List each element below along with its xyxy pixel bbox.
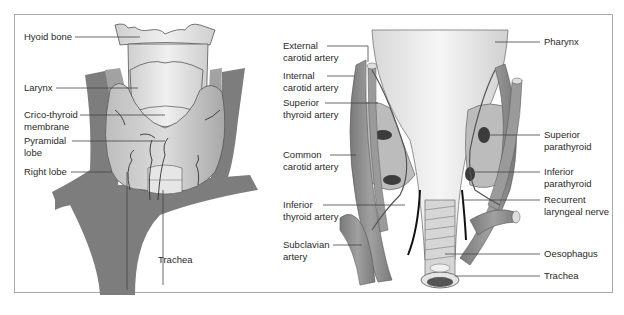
inferior-parathyroid-left (383, 175, 401, 185)
label-subclavian-artery: Subclavianartery (283, 239, 329, 263)
recurrent-laryngeal-nerve-right (462, 190, 466, 240)
label-superior-parathyroid: Superiorparathyroid (544, 129, 592, 153)
label-crico-thyroid-membrane: Crico-thyroidmembrane (24, 109, 78, 133)
label-superior-thyroid-artery: Superiorthyroid artery (283, 97, 338, 121)
label-pyramidal-lobe: Pyramidallobe (24, 135, 66, 159)
label-trachea-right: Trachea (544, 270, 579, 282)
label-larynx: Larynx (24, 82, 53, 94)
right-illustration (340, 30, 522, 288)
label-hyoid-bone: Hyoid bone (24, 31, 72, 43)
label-common-carotid-artery: Commoncarotid artery (283, 149, 338, 173)
label-trachea-left: Trachea (158, 254, 193, 266)
label-inferior-thyroid-artery: Inferiorthyroid artery (283, 199, 338, 223)
left-illustration (52, 24, 258, 295)
label-oesophagus: Oesophagus (544, 248, 598, 260)
label-external-carotid-artery: Externalcarotid artery (283, 40, 338, 64)
label-internal-carotid-artery: Internalcarotid artery (283, 70, 338, 94)
recurrent-laryngeal-nerve-left (408, 190, 420, 255)
label-right-lobe: Right lobe (24, 166, 67, 178)
label-recurrent-laryngeal-nerve: Recurrentlaryngeal nerve (544, 194, 609, 218)
label-pharynx: Pharynx (544, 36, 579, 48)
label-inferior-parathyroid: Inferiorparathyroid (544, 166, 592, 190)
trachea-rings (148, 165, 182, 194)
hyoid-bone (115, 24, 215, 45)
